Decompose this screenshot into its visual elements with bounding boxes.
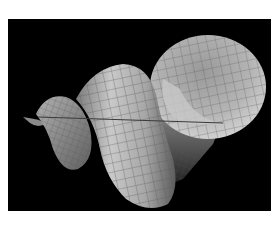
render-viewport	[8, 19, 271, 211]
spiral-horn-render	[8, 19, 271, 211]
